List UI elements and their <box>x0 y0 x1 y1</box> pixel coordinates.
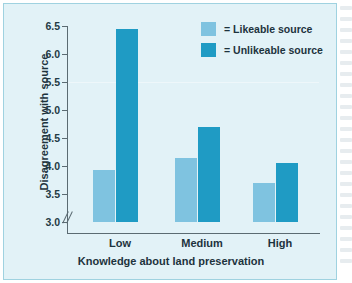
y-tick-label: 3.5 <box>30 188 60 200</box>
x-axis-line <box>67 233 320 234</box>
bar-high-unlikeable[interactable] <box>276 163 298 222</box>
y-tick-label: 4.5 <box>30 132 60 144</box>
legend-item[interactable]: = Unlikeable source <box>201 43 323 57</box>
legend-item[interactable]: = Likeable source <box>201 22 323 36</box>
y-tick-label: 5.0 <box>30 104 60 116</box>
y-tick-mark <box>62 26 68 27</box>
bar-high-likeable[interactable] <box>253 183 275 222</box>
x-tick-label: High <box>235 237 325 249</box>
bar-low-unlikeable[interactable] <box>116 29 138 222</box>
y-tick-mark <box>62 82 68 83</box>
y-tick-mark <box>62 194 68 195</box>
y-axis-tick-labels: 6.56.05.55.04.54.03.53.0 <box>26 26 60 222</box>
bar-group <box>89 26 151 222</box>
page-text-bleed <box>340 6 352 278</box>
y-tick-label: 5.5 <box>30 76 60 88</box>
x-tick-label: Low <box>75 237 165 249</box>
legend-label: = Likeable source <box>224 23 312 35</box>
y-tick-mark <box>62 54 68 55</box>
chart-legend: = Likeable source= Unlikeable source <box>201 22 323 57</box>
y-tick-mark <box>62 138 68 139</box>
y-tick-label: 3.0 <box>30 216 60 228</box>
bar-medium-likeable[interactable] <box>175 158 197 222</box>
y-tick-label: 6.0 <box>30 48 60 60</box>
y-tick-mark <box>62 222 68 223</box>
x-tick-label: Medium <box>157 237 247 249</box>
y-tick-mark <box>62 110 68 111</box>
y-tick-mark <box>62 166 68 167</box>
y-tick-label: 4.0 <box>30 160 60 172</box>
y-tick-label: 6.5 <box>30 20 60 32</box>
x-axis-title: Knowledge about land preservation <box>4 255 338 267</box>
legend-swatch <box>201 22 216 36</box>
chart-figure: Disagreement with source 6.56.05.55.04.5… <box>3 3 337 280</box>
legend-label: = Unlikeable source <box>224 44 323 56</box>
bar-low-likeable[interactable] <box>93 170 115 222</box>
legend-swatch <box>201 43 216 57</box>
bar-medium-unlikeable[interactable] <box>198 127 220 222</box>
